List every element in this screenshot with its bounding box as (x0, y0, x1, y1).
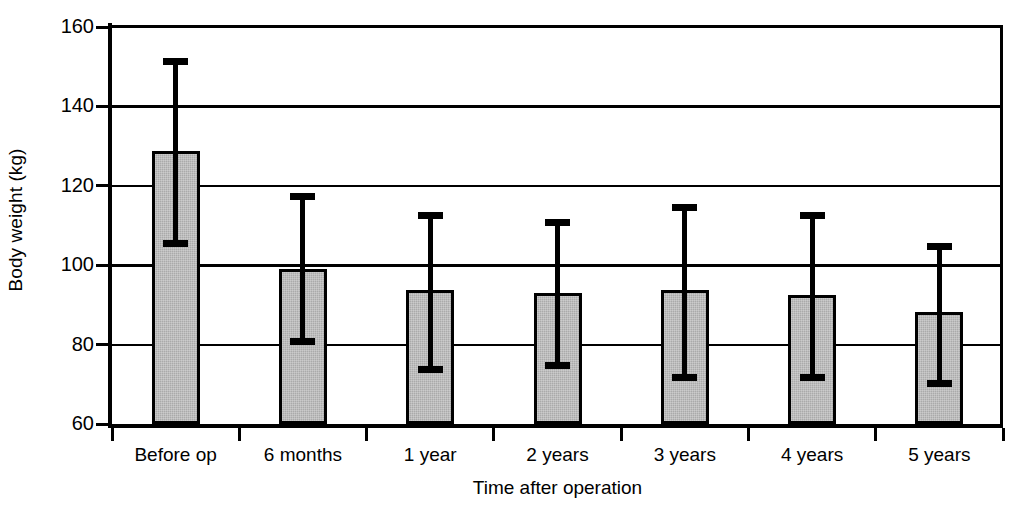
error-bar-cap-upper-2 (418, 212, 443, 219)
error-bar-cap-upper-0 (163, 58, 188, 65)
y-tick-label-140: 140 (44, 95, 94, 115)
x-tick-label-1-year: 1 year (367, 444, 494, 466)
x-tick-mark-1 (365, 428, 368, 441)
x-tick-mark-origin (111, 428, 114, 441)
x-tick-label-6-months: 6 months (239, 444, 366, 466)
error-bar-cap-upper-1 (290, 193, 315, 200)
error-bar-line-2 (428, 216, 433, 370)
y-axis-title: Body weight (kg) (2, 0, 30, 440)
x-tick-mark-0 (238, 428, 241, 441)
error-bar-cap-lower-6 (927, 380, 952, 387)
bar-chart: Body weight (kg) 160 140 120 100 80 60 B… (0, 0, 1030, 508)
error-bar-line-1 (300, 197, 305, 342)
y-tick-mark-120 (96, 184, 110, 187)
error-bar-line-6 (937, 247, 942, 383)
error-bar-line-4 (682, 208, 687, 378)
y-tick-label-80: 80 (44, 334, 94, 354)
y-tick-label-100: 100 (44, 254, 94, 274)
gridline-120 (112, 185, 1003, 187)
error-bar-cap-lower-2 (418, 366, 443, 373)
error-bar-cap-upper-6 (927, 243, 952, 250)
error-bar-cap-lower-1 (290, 338, 315, 345)
error-bar-cap-lower-4 (672, 374, 697, 381)
y-tick-label-60: 60 (44, 413, 94, 433)
x-tick-mark-2 (492, 428, 495, 441)
error-bar-cap-upper-4 (672, 204, 697, 211)
gridline-140 (112, 105, 1003, 108)
error-bar-cap-lower-0 (163, 240, 188, 247)
error-bar-cap-lower-5 (800, 374, 825, 381)
plot-area (112, 27, 1003, 424)
y-tick-mark-160 (96, 26, 110, 29)
error-bar-cap-lower-3 (545, 362, 570, 369)
error-bar-cap-upper-5 (800, 212, 825, 219)
x-tick-label-before-op: Before op (112, 444, 239, 466)
x-tick-mark-4 (747, 428, 750, 441)
x-tick-mark-5 (874, 428, 877, 441)
x-axis-title: Time after operation (112, 477, 1003, 499)
y-tick-label-160: 160 (44, 16, 94, 36)
y-tick-mark-80 (96, 343, 110, 346)
x-tick-mark-3 (620, 428, 623, 441)
x-tick-label-5-years: 5 years (876, 444, 1003, 466)
error-bar-line-5 (810, 215, 815, 377)
x-tick-label-2-years: 2 years (494, 444, 621, 466)
y-tick-label-120: 120 (44, 175, 94, 195)
error-bar-line-3 (555, 222, 560, 365)
y-tick-mark-140 (96, 105, 110, 108)
y-tick-mark-60 (96, 423, 110, 426)
x-tick-label-3-years: 3 years (621, 444, 748, 466)
error-bar-line-0 (173, 61, 178, 244)
x-axis-line (108, 424, 1003, 428)
x-tick-mark-6 (1002, 428, 1005, 441)
y-tick-mark-100 (96, 264, 110, 267)
error-bar-cap-upper-3 (545, 219, 570, 226)
x-tick-label-4-years: 4 years (748, 444, 875, 466)
